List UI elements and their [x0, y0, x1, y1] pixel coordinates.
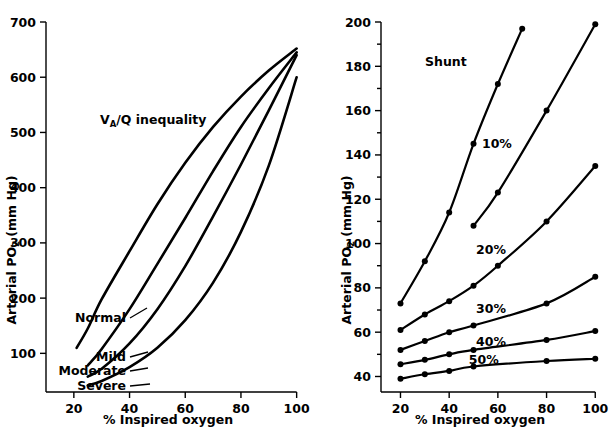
data-point-marker — [519, 26, 525, 32]
data-point-marker — [592, 274, 598, 280]
data-point-marker — [446, 210, 452, 216]
right-x-axis-title: % Inspired oxygen — [415, 412, 545, 427]
figure-two-panel-oxygen-response: 10020030040050060070020406080100 NormalM… — [0, 0, 615, 429]
right-data-markers — [397, 21, 598, 381]
y-tick-label: 160 — [345, 103, 371, 118]
data-point-marker — [592, 21, 598, 27]
left-panel-title: VA/Q inequality — [100, 112, 206, 129]
data-point-marker — [422, 311, 428, 317]
right-panel-title: Shunt — [425, 54, 467, 69]
curve-moderate — [88, 55, 297, 376]
y-tick-label: 180 — [345, 59, 371, 74]
data-point-marker — [422, 258, 428, 264]
left-curve-labels: NormalMildModerateSevere — [58, 308, 150, 393]
curve-label-mild: Mild — [96, 349, 126, 364]
right-chart-svg: 40608010012014016018020020406080100 10%2… — [305, 0, 615, 429]
data-point-marker — [397, 327, 403, 333]
y-tick-label: 700 — [10, 15, 36, 30]
right-y-axis-title: Arterial PO2 (mm Hg) — [339, 175, 356, 324]
data-point-marker — [446, 351, 452, 357]
y-tick-label: 40 — [354, 369, 372, 384]
data-point-marker — [397, 347, 403, 353]
x-tick-label: 20 — [392, 401, 410, 416]
y-tick-label: 200 — [345, 15, 371, 30]
data-point-marker — [471, 283, 477, 289]
shunt-label-50pct: 50% — [469, 352, 499, 367]
x-tick-label: 100 — [582, 401, 608, 416]
curve-label-moderate: Moderate — [58, 363, 126, 378]
data-point-marker — [544, 337, 550, 343]
right-curves — [400, 24, 595, 378]
data-point-marker — [397, 361, 403, 367]
data-point-marker — [592, 328, 598, 334]
y-tick-label: 140 — [345, 147, 371, 162]
curve-10pct — [400, 29, 522, 304]
data-point-marker — [422, 338, 428, 344]
data-point-marker — [422, 371, 428, 377]
shunt-label-30pct: 30% — [476, 301, 506, 316]
data-point-marker — [397, 376, 403, 382]
data-point-marker — [422, 357, 428, 363]
panel-va-q-inequality: 10020030040050060070020406080100 NormalM… — [0, 0, 310, 429]
curve-0pct — [474, 24, 596, 226]
left-y-axis-title: Arterial PO2 (mm Hg) — [4, 175, 21, 324]
data-point-marker — [495, 81, 501, 87]
x-tick-label: 80 — [232, 401, 250, 416]
left-x-axis-title: % Inspired oxygen — [103, 412, 233, 427]
data-point-marker — [495, 263, 501, 269]
curve-label-severe: Severe — [77, 378, 126, 393]
data-point-marker — [495, 190, 501, 196]
data-point-marker — [471, 323, 477, 329]
left-curves — [77, 49, 297, 386]
data-point-marker — [446, 298, 452, 304]
data-point-marker — [544, 300, 550, 306]
panel-shunt: 40608010012014016018020020406080100 10%2… — [305, 0, 615, 429]
y-tick-label: 60 — [354, 325, 372, 340]
data-point-marker — [446, 329, 452, 335]
data-point-marker — [544, 108, 550, 114]
data-point-marker — [397, 300, 403, 306]
data-point-marker — [446, 368, 452, 374]
left-chart-svg: 10020030040050060070020406080100 NormalM… — [0, 0, 310, 429]
y-tick-label: 500 — [10, 125, 36, 140]
y-tick-label: 80 — [354, 280, 372, 295]
shunt-label-10pct: 10% — [482, 136, 512, 151]
shunt-label-20pct: 20% — [476, 242, 506, 257]
data-point-marker — [592, 163, 598, 169]
right-curve-labels: 10%20%30%40%50% — [469, 136, 513, 367]
x-tick-label: 20 — [65, 401, 83, 416]
y-tick-label: 600 — [10, 70, 36, 85]
data-point-marker — [471, 223, 477, 229]
data-point-marker — [544, 218, 550, 224]
data-point-marker — [592, 356, 598, 362]
shunt-label-40pct: 40% — [476, 334, 506, 349]
data-point-marker — [471, 141, 477, 147]
data-point-marker — [544, 358, 550, 364]
curve-label-normal: Normal — [75, 310, 126, 325]
y-tick-label: 100 — [10, 346, 36, 361]
